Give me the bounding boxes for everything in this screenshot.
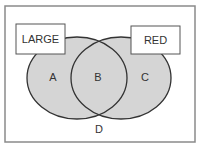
region-c-label: C (141, 71, 149, 83)
venn-diagram: LARGE RED A B C D (0, 0, 200, 148)
label-box-large: LARGE (16, 24, 65, 54)
label-box-red: RED (131, 26, 180, 54)
label-large: LARGE (22, 33, 59, 45)
region-b-label: B (94, 71, 101, 83)
region-d-label: D (95, 123, 103, 135)
region-a-label: A (49, 71, 57, 83)
label-red: RED (144, 34, 167, 46)
